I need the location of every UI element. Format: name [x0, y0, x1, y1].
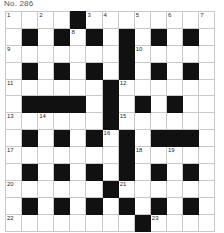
crossword-cell[interactable]	[166, 28, 182, 45]
crossword-cell[interactable]	[70, 164, 86, 181]
crossword-cell[interactable]: 19	[166, 147, 182, 164]
crossword-cell[interactable]	[86, 214, 102, 231]
crossword-cell[interactable]	[183, 113, 199, 130]
crossword-cell[interactable]	[183, 180, 199, 197]
crossword-cell[interactable]: 2	[38, 12, 54, 29]
crossword-cell[interactable]: 8	[70, 28, 86, 45]
crossword-cell[interactable]	[150, 96, 166, 113]
crossword-cell[interactable]	[70, 130, 86, 147]
crossword-cell[interactable]: 5	[134, 12, 150, 29]
crossword-cell[interactable]	[199, 147, 215, 164]
crossword-cell[interactable]	[134, 113, 150, 130]
crossword-cell[interactable]	[6, 130, 22, 147]
crossword-cell[interactable]	[22, 180, 38, 197]
crossword-cell[interactable]	[199, 28, 215, 45]
crossword-cell[interactable]	[86, 113, 102, 130]
crossword-cell[interactable]: 11	[6, 79, 22, 96]
crossword-cell[interactable]	[166, 113, 182, 130]
crossword-cell[interactable]	[102, 45, 118, 62]
crossword-cell[interactable]	[22, 113, 38, 130]
crossword-cell[interactable]	[134, 180, 150, 197]
crossword-cell[interactable]	[38, 214, 54, 231]
crossword-cell[interactable]	[199, 113, 215, 130]
crossword-cell[interactable]: 20	[6, 180, 22, 197]
crossword-cell[interactable]	[183, 79, 199, 96]
crossword-cell[interactable]	[150, 113, 166, 130]
crossword-cell[interactable]	[199, 180, 215, 197]
crossword-cell[interactable]: 10	[134, 45, 150, 62]
crossword-cell[interactable]	[70, 180, 86, 197]
crossword-cell[interactable]	[54, 214, 70, 231]
crossword-cell[interactable]	[199, 96, 215, 113]
crossword-cell[interactable]	[54, 180, 70, 197]
crossword-cell[interactable]: 1	[6, 12, 22, 29]
crossword-cell[interactable]	[166, 62, 182, 79]
crossword-cell[interactable]	[70, 197, 86, 214]
crossword-cell[interactable]	[134, 62, 150, 79]
crossword-cell[interactable]	[38, 28, 54, 45]
crossword-cell[interactable]	[199, 130, 215, 147]
crossword-cell[interactable]	[70, 62, 86, 79]
crossword-cell[interactable]: 9	[6, 45, 22, 62]
crossword-cell[interactable]	[118, 96, 134, 113]
crossword-cell[interactable]	[166, 197, 182, 214]
crossword-cell[interactable]	[150, 79, 166, 96]
crossword-cell[interactable]	[86, 79, 102, 96]
crossword-cell[interactable]: 12	[118, 79, 134, 96]
crossword-cell[interactable]	[166, 45, 182, 62]
crossword-cell[interactable]: 21	[118, 180, 134, 197]
crossword-cell[interactable]	[102, 214, 118, 231]
crossword-cell[interactable]	[38, 62, 54, 79]
crossword-cell[interactable]: 13	[6, 113, 22, 130]
crossword-cell[interactable]	[166, 214, 182, 231]
crossword-cell[interactable]: 14	[38, 113, 54, 130]
crossword-cell[interactable]: 3	[86, 12, 102, 29]
crossword-cell[interactable]	[183, 147, 199, 164]
crossword-cell[interactable]	[183, 12, 199, 29]
crossword-cell[interactable]: 17	[6, 147, 22, 164]
crossword-cell[interactable]	[150, 45, 166, 62]
crossword-cell[interactable]	[6, 197, 22, 214]
crossword-cell[interactable]	[6, 28, 22, 45]
crossword-cell[interactable]: 6	[166, 12, 182, 29]
crossword-cell[interactable]	[70, 147, 86, 164]
crossword-cell[interactable]: 7	[199, 12, 215, 29]
crossword-cell[interactable]	[70, 79, 86, 96]
crossword-cell[interactable]	[38, 79, 54, 96]
crossword-cell[interactable]	[199, 164, 215, 181]
crossword-cell[interactable]	[199, 214, 215, 231]
crossword-cell[interactable]	[22, 12, 38, 29]
crossword-cell[interactable]	[183, 96, 199, 113]
crossword-cell[interactable]	[166, 180, 182, 197]
crossword-cell[interactable]	[6, 96, 22, 113]
crossword-cell[interactable]	[38, 147, 54, 164]
crossword-cell[interactable]	[70, 113, 86, 130]
crossword-cell[interactable]: 23	[150, 214, 166, 231]
crossword-cell[interactable]	[54, 12, 70, 29]
crossword-cell[interactable]	[70, 214, 86, 231]
crossword-cell[interactable]	[183, 214, 199, 231]
crossword-cell[interactable]: 4	[102, 12, 118, 29]
crossword-cell[interactable]	[166, 79, 182, 96]
crossword-cell[interactable]: 18	[134, 147, 150, 164]
crossword-cell[interactable]	[199, 45, 215, 62]
crossword-cell[interactable]	[54, 45, 70, 62]
crossword-grid[interactable]: 1234567891011121314151617181920212223	[5, 11, 215, 232]
crossword-cell[interactable]	[102, 147, 118, 164]
crossword-cell[interactable]	[22, 147, 38, 164]
crossword-cell[interactable]	[6, 164, 22, 181]
crossword-cell[interactable]	[102, 164, 118, 181]
crossword-cell[interactable]	[86, 180, 102, 197]
crossword-cell[interactable]	[118, 214, 134, 231]
crossword-cell[interactable]	[38, 180, 54, 197]
crossword-cell[interactable]	[38, 130, 54, 147]
crossword-cell[interactable]	[86, 45, 102, 62]
crossword-cell[interactable]	[134, 28, 150, 45]
crossword-cell[interactable]: 16	[102, 130, 118, 147]
crossword-cell[interactable]	[134, 130, 150, 147]
crossword-cell[interactable]	[70, 45, 86, 62]
crossword-cell[interactable]	[38, 197, 54, 214]
crossword-cell[interactable]	[150, 147, 166, 164]
crossword-cell[interactable]	[86, 147, 102, 164]
crossword-cell[interactable]	[199, 62, 215, 79]
